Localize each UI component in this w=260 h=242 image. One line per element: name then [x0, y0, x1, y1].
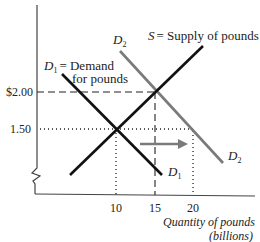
y-axis	[32, 5, 40, 194]
demand-curve-d2	[120, 51, 223, 163]
x-tick-20: 20	[187, 201, 199, 215]
x-tick-15: 15	[149, 201, 161, 215]
y-tick-2-00: $2.00	[6, 85, 33, 99]
shift-arrow-icon	[140, 139, 188, 149]
d2-label-bottom: D2	[227, 148, 241, 165]
y-tick-1-50: 1.50	[10, 122, 31, 136]
demand-curve-d1	[62, 74, 162, 175]
x-axis	[35, 194, 255, 196]
supply-label: S= Supply of pounds	[148, 28, 259, 43]
d2-label-top: D2	[112, 32, 126, 49]
d1-label-line2: for pounds	[72, 71, 128, 86]
x-axis-title-line1: Quantity of pounds	[163, 215, 255, 229]
x-tick-10: 10	[110, 201, 122, 215]
x-axis-title-line2: (billions)	[209, 229, 253, 242]
supply-demand-diagram: D1= Demand for pounds D2 S= Supply of po…	[0, 0, 260, 242]
d1-label-bottom: D1	[167, 164, 181, 181]
